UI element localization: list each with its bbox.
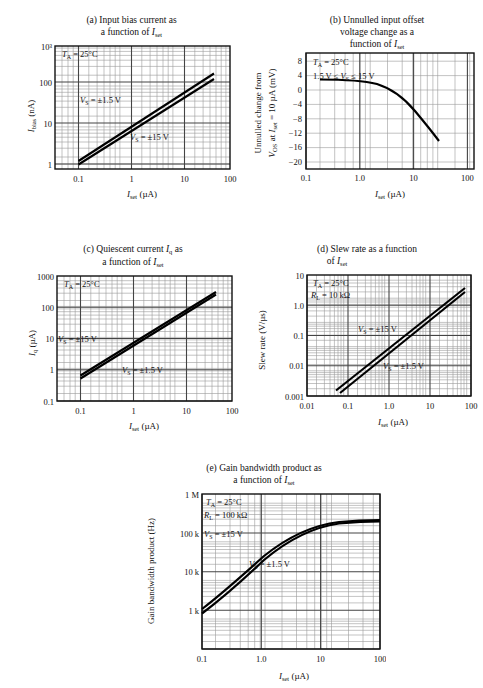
panel-c-title: (c) Quiescent current Iq as a function o… bbox=[24, 243, 242, 269]
panel-d-title-line1: (d) Slew rate as a function bbox=[317, 244, 417, 254]
panel-e-ytick-labels: 1 M 100 k 10 k 1 k bbox=[180, 490, 200, 616]
panel-a-ylabel: Ibias (nA) bbox=[26, 100, 37, 134]
panel-e-title-line1: (e) Gain bandwidth product as bbox=[206, 463, 322, 473]
panel-e-annot-temp: TA = 25°C bbox=[206, 497, 242, 508]
panel-a-annot-vs1p5: VS = ±1.5 V bbox=[80, 95, 122, 106]
panel-e-ytick-0: 1 M bbox=[185, 490, 199, 500]
panel-e-xtick-2: 10 bbox=[316, 654, 325, 664]
panel-b-ytick-2: 0 bbox=[298, 85, 302, 95]
panel-e-xtick-1: 1.0 bbox=[256, 654, 267, 664]
panel-a-ytick-labels: 10³ 100 10 1 bbox=[39, 42, 52, 170]
panel-c-ytick-1: 100 bbox=[41, 303, 54, 313]
panel-a-xtick-0: 0.1 bbox=[73, 174, 84, 184]
panel-c-ytick-labels: 1000 100 10 1 0.1 bbox=[37, 272, 54, 407]
panel-d-xtick-labels: 0.01 0.1 1.0 10 100 bbox=[300, 401, 478, 411]
panel-c-title-sub: q bbox=[169, 248, 172, 255]
panel-d-xtick-2: 1.0 bbox=[384, 401, 395, 411]
panel-b-title-line2: voltage change as a bbox=[340, 27, 414, 37]
panel-b-xtick-0: 0.1 bbox=[301, 173, 312, 183]
panel-d-ytick-3: 0.01 bbox=[289, 361, 304, 371]
panel-d-title2-pre: of bbox=[327, 256, 337, 266]
panel-c-xtick-3: 100 bbox=[226, 406, 239, 416]
panel-c-annot-vs1p5: VS = ±1.5 V bbox=[122, 365, 164, 376]
panel-b-title-line1: (b) Unnulled input offset bbox=[330, 15, 425, 25]
panel-e-ytick-1: 100 k bbox=[180, 529, 200, 539]
panel-d-ylabel: Slew rate (V/µs) bbox=[257, 310, 267, 370]
panel-b-ytick-labels: 8 4 0 −4 −8 −12 −16 −20 bbox=[289, 56, 303, 167]
panel-b-plot: 8 4 0 −4 −8 −12 −16 −20 0.1 1.0 10 100 T… bbox=[243, 51, 481, 201]
panel-a-xtick-3: 100 bbox=[224, 174, 237, 184]
panel-a-xtick-1: 1 bbox=[129, 174, 133, 184]
panel-e-svg: 1 M 100 k 10 k 1 k 0.1 1.0 10 100 TA = 2… bbox=[124, 489, 386, 688]
panel-b-ytick-5: −12 bbox=[289, 128, 302, 138]
panel-d-series-vs15 bbox=[336, 288, 465, 391]
panel-d-ytick-labels: 10 1.0 0.1 0.01 0.001 bbox=[285, 271, 304, 402]
panel-b-ytick-3: −4 bbox=[293, 99, 303, 109]
panel-b-curves bbox=[320, 80, 439, 142]
panel-a-svg: 10³ 100 10 1 0.1 1 10 100 TA = 25°C VS =… bbox=[24, 41, 239, 201]
panel-d-svg: 10 1.0 0.1 0.01 0.001 0.01 0.1 1.0 10 10… bbox=[243, 270, 481, 430]
panel-c-series-vs15 bbox=[81, 292, 217, 376]
panel-b-xtick-2: 10 bbox=[409, 173, 418, 183]
panel-c-xlabel: Iset (µA) bbox=[128, 421, 159, 431]
panel-b-ytick-7: −20 bbox=[289, 157, 302, 167]
panel-a-series-vs1p5 bbox=[79, 74, 215, 162]
panel-a-title-sub: set bbox=[155, 31, 162, 38]
panel-b-xtick-3: 100 bbox=[461, 173, 474, 183]
panel-b-ytick-4: −8 bbox=[293, 114, 302, 124]
panel-a-plot: 10³ 100 10 1 0.1 1 10 100 TA = 25°C VS =… bbox=[24, 41, 239, 201]
panel-b-title: (b) Unnulled input offset voltage change… bbox=[243, 14, 481, 51]
panel-e-xlabel: Iset (µA) bbox=[278, 671, 309, 682]
panel-c-title2-sub: set bbox=[156, 261, 163, 268]
panel-b-annot-vs-range: 1.5 V ≤ VS ≤ 15 V bbox=[313, 71, 375, 82]
panel-b-series-offset bbox=[320, 80, 439, 142]
panel-c-ytick-4: 0.1 bbox=[43, 397, 54, 407]
panel-e-title2-pre: a function of bbox=[233, 475, 284, 485]
panel-b-annotations: TA = 25°C 1.5 V ≤ VS ≤ 15 V bbox=[313, 57, 375, 82]
panel-e-ylabel: Gain bandwidth product (Hz) bbox=[146, 518, 156, 624]
panel-b-ylabel-line2: VOS at Iset = 10 µA (mV) bbox=[267, 69, 278, 158]
panel-d-xtick-1: 0.1 bbox=[343, 401, 354, 411]
panel-c-ytick-3: 1 bbox=[50, 365, 54, 375]
panel-d-xtick-4: 100 bbox=[465, 401, 478, 411]
panel-d-ytick-2: 0.1 bbox=[293, 331, 304, 341]
panel-d-ytick-1: 1.0 bbox=[293, 301, 304, 311]
panel-a-title-line1: (a) Input bias current as bbox=[86, 15, 176, 25]
panel-a-ytick-2: 10 bbox=[44, 119, 53, 129]
panel-d-ytick-4: 0.001 bbox=[285, 392, 304, 402]
panel-e-ytick-2: 10 k bbox=[184, 567, 200, 577]
panel-d-xtick-0: 0.01 bbox=[300, 401, 315, 411]
panel-d-annot-temp: TA = 25°C bbox=[313, 278, 349, 289]
panel-e-xtick-0: 0.1 bbox=[197, 654, 208, 664]
panel-e-title2-sub: set bbox=[287, 479, 294, 486]
panel-d-ytick-0: 10 bbox=[296, 271, 305, 281]
panel-d-annot-vs15: VS = ±15 V bbox=[358, 324, 398, 335]
panel-a-xtick-labels: 0.1 1 10 100 bbox=[73, 174, 236, 184]
panel-c: (c) Quiescent current Iq as a function o… bbox=[24, 243, 242, 431]
panel-b-title-sub: set bbox=[397, 43, 404, 50]
panel-c-svg: 1000 100 10 1 0.1 0.1 1 10 100 TA = 25°C… bbox=[24, 271, 242, 431]
panel-a: (a) Input bias current as a function of … bbox=[24, 14, 239, 201]
panel-b-ytick-6: −16 bbox=[289, 142, 302, 152]
panel-c-ytick-2: 10 bbox=[46, 334, 55, 344]
panel-c-annotations: TA = 25°C VS = ±15 V VS = ±1.5 V bbox=[58, 279, 164, 376]
panel-e-title: (e) Gain bandwidth product as a function… bbox=[124, 462, 386, 487]
panel-d-annot-rl: RL = 10 kΩ bbox=[310, 290, 350, 301]
panel-a-annot-temp: TA = 25°C bbox=[62, 49, 98, 60]
panel-b-xtick-labels: 0.1 1.0 10 100 bbox=[301, 173, 474, 183]
panel-b-svg: 8 4 0 −4 −8 −12 −16 −20 0.1 1.0 10 100 T… bbox=[243, 51, 481, 201]
panel-b-annot-temp: TA = 25°C bbox=[313, 57, 349, 68]
panel-b-xtick-1: 1.0 bbox=[354, 173, 365, 183]
panel-e-xtick-labels: 0.1 1.0 10 100 bbox=[197, 654, 386, 664]
panel-c-plot: 1000 100 10 1 0.1 0.1 1 10 100 TA = 25°C… bbox=[24, 271, 242, 431]
panel-c-xtick-0: 0.1 bbox=[75, 406, 86, 416]
panel-c-xtick-2: 10 bbox=[182, 406, 191, 416]
panel-e-annot-vs1p5: VS = ±1.5 V bbox=[249, 559, 291, 570]
panel-a-annot-vs15: VS = ±15 V bbox=[130, 132, 170, 143]
panel-a-ytick-0: 10³ bbox=[41, 42, 53, 52]
panel-a-grid bbox=[55, 46, 230, 169]
panel-c-title-post: as bbox=[172, 244, 182, 254]
panel-b-ytick-0: 8 bbox=[298, 56, 302, 66]
panel-a-curves bbox=[79, 74, 215, 165]
panel-c-ylabel: Iq (µA) bbox=[27, 330, 38, 357]
